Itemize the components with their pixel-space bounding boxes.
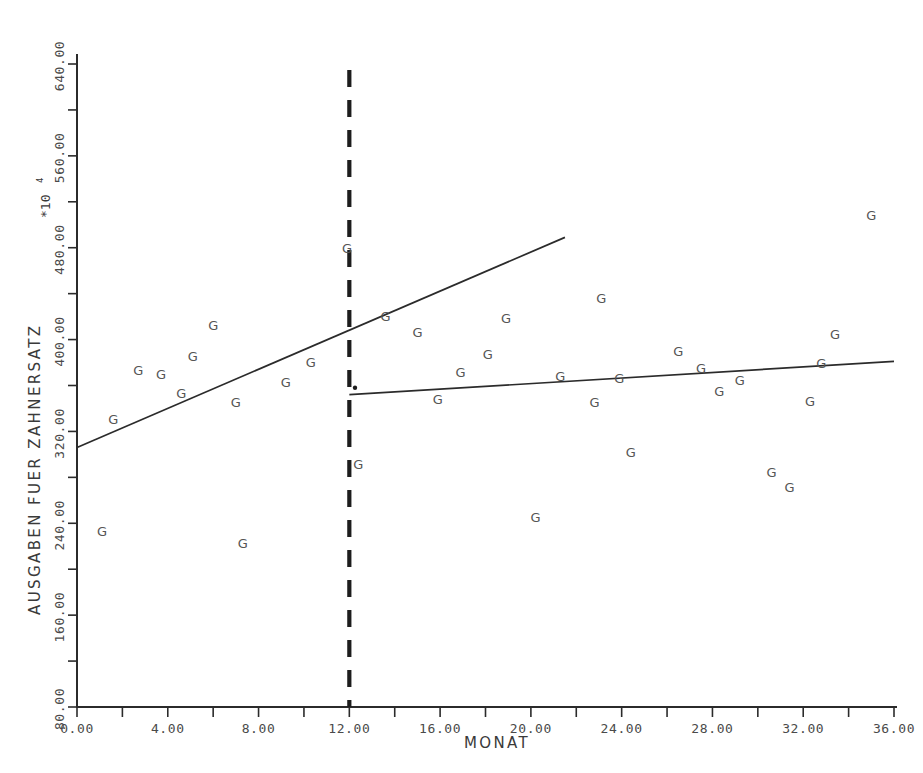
- y-tick-label: 160.00: [52, 592, 67, 643]
- data-point-marker: G: [231, 395, 241, 410]
- data-point-marker: G: [589, 395, 599, 410]
- y-axis-exponent-power: 4: [35, 178, 45, 183]
- data-point-marker: G: [830, 327, 840, 342]
- x-tick-label: 36.00: [873, 721, 915, 736]
- segment-start-dot: [353, 386, 357, 390]
- x-axis-title: MONAT: [464, 734, 530, 752]
- data-point-marker: G: [596, 291, 606, 306]
- x-tick-label: 32.00: [782, 721, 824, 736]
- y-tick-label: 480.00: [52, 224, 67, 275]
- y-tick-label: 400.00: [52, 316, 67, 367]
- data-point-marker: G: [626, 445, 636, 460]
- data-point-marker: G: [816, 356, 826, 371]
- data-point-marker: G: [433, 392, 443, 407]
- data-point-marker: G: [483, 347, 493, 362]
- data-point-marker: G: [530, 510, 540, 525]
- y-tick-label: 640.00: [52, 41, 67, 92]
- data-point-marker: G: [714, 384, 724, 399]
- x-tick-label: 4.00: [151, 721, 185, 736]
- data-point-marker: G: [866, 208, 876, 223]
- data-point-marker: G: [208, 318, 218, 333]
- x-tick-label: 0.00: [60, 721, 94, 736]
- data-point-marker: G: [555, 369, 565, 384]
- x-tick-label: 28.00: [691, 721, 733, 736]
- data-point-marker: G: [306, 355, 316, 370]
- data-point-marker: G: [455, 365, 465, 380]
- data-point-marker: G: [188, 349, 198, 364]
- data-point-marker: G: [238, 536, 248, 551]
- data-point-marker: G: [156, 367, 166, 382]
- y-axis-title: AUSGABEN FUER ZAHNERSATZ: [26, 323, 44, 615]
- data-point-marker: G: [412, 325, 422, 340]
- data-point-marker: G: [501, 311, 511, 326]
- x-tick-label: 24.00: [601, 721, 643, 736]
- y-tick-label: 560.00: [52, 133, 67, 184]
- data-point-marker: G: [785, 480, 795, 495]
- data-point-marker: G: [735, 373, 745, 388]
- data-point-marker: G: [766, 465, 776, 480]
- data-point-marker: G: [614, 371, 624, 386]
- chart-page: 80.00160.00240.00320.00400.00480.00560.0…: [0, 0, 923, 773]
- data-point-marker: G: [97, 524, 107, 539]
- data-point-marker: G: [281, 375, 291, 390]
- data-point-marker: G: [133, 363, 143, 378]
- data-point-marker: G: [381, 309, 391, 324]
- scatter-chart: 80.00160.00240.00320.00400.00480.00560.0…: [0, 0, 923, 773]
- x-tick-label: 16.00: [419, 721, 461, 736]
- data-point-marker: G: [342, 241, 352, 256]
- chart-background: [0, 0, 923, 773]
- data-point-marker: G: [108, 412, 118, 427]
- data-point-marker: G: [353, 457, 363, 472]
- y-axis-exponent-label: *10: [38, 195, 53, 218]
- y-tick-label: 240.00: [52, 500, 67, 551]
- data-point-marker: G: [673, 344, 683, 359]
- annotation-dots: [353, 386, 357, 390]
- data-point-marker: G: [805, 394, 815, 409]
- y-tick-label: 320.00: [52, 408, 67, 459]
- data-point-marker: G: [176, 386, 186, 401]
- data-point-marker: G: [696, 361, 706, 376]
- x-tick-label: 8.00: [242, 721, 276, 736]
- x-tick-label: 12.00: [328, 721, 370, 736]
